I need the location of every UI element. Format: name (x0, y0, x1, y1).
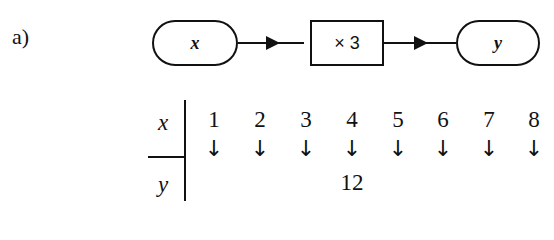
x-value-1: 1 (199, 107, 229, 133)
table-horizontal-divider (148, 156, 185, 158)
part-label: a) (12, 24, 29, 50)
down-arrow-icon: ↓ (474, 136, 504, 161)
arrowhead-icon (266, 36, 280, 50)
down-arrow-icon: ↓ (291, 136, 321, 161)
x-value-8: 8 (519, 107, 549, 133)
down-arrow-icon: ↓ (199, 136, 229, 161)
x-value-5: 5 (383, 107, 413, 133)
input-label: x (191, 33, 200, 54)
y-value-4: 12 (337, 170, 367, 196)
x-value-6: 6 (428, 107, 458, 133)
down-arrow-icon: ↓ (245, 136, 275, 161)
row-header-x: x (158, 110, 168, 136)
x-value-4: 4 (337, 107, 367, 133)
down-arrow-icon: ↓ (383, 136, 413, 161)
down-arrow-icon: ↓ (428, 136, 458, 161)
down-arrow-icon: ↓ (519, 136, 549, 161)
row-header-y: y (158, 172, 168, 198)
output-node: y (456, 20, 540, 66)
table-vertical-divider (184, 100, 186, 201)
output-label: y (494, 33, 502, 54)
input-node: x (152, 20, 238, 66)
x-value-2: 2 (245, 107, 275, 133)
arrowhead-icon (414, 36, 428, 50)
down-arrow-icon: ↓ (337, 136, 367, 161)
operation-label: × 3 (334, 33, 360, 54)
x-value-3: 3 (291, 107, 321, 133)
x-value-7: 7 (474, 107, 504, 133)
operation-box: × 3 (310, 20, 384, 66)
